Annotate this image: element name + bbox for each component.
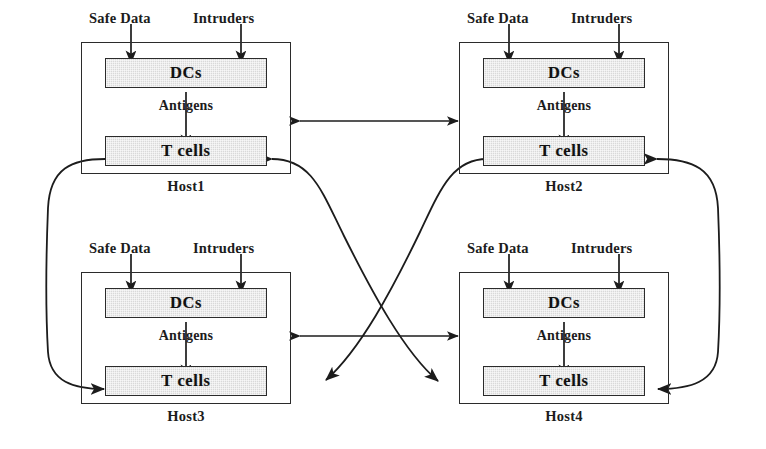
tcells-box-host1[interactable]: T cells [105, 136, 267, 166]
host-name-label-host1: Host1 [81, 178, 291, 195]
antigens-label-host4: Antigens [459, 328, 669, 344]
host-name-label-host2: Host2 [459, 178, 669, 195]
dcs-box-host4[interactable]: DCs [483, 288, 645, 318]
tcells-box-host2[interactable]: T cells [483, 136, 645, 166]
input-label-safe-data-host3: Safe Data [89, 240, 151, 257]
input-label-intruders-host1: Intruders [193, 10, 254, 27]
connector-host1-host4 [272, 159, 438, 381]
host-name-label-host4: Host4 [459, 408, 669, 425]
dcs-box-host2[interactable]: DCs [483, 58, 645, 88]
host-name-label-host3: Host3 [81, 408, 291, 425]
input-label-safe-data-host4: Safe Data [467, 240, 529, 257]
input-label-intruders-host2: Intruders [571, 10, 632, 27]
tcells-box-host4[interactable]: T cells [483, 366, 645, 396]
dcs-box-host3[interactable]: DCs [105, 288, 267, 318]
input-label-safe-data-host2: Safe Data [467, 10, 529, 27]
host-block-host3[interactable]: Safe Data Intruders DCs Antigens T cells… [81, 240, 291, 430]
antigens-label-host2: Antigens [459, 98, 669, 114]
host-block-host4[interactable]: Safe Data Intruders DCs Antigens T cells… [459, 240, 669, 430]
host-block-host2[interactable]: Safe Data Intruders DCs Antigens T cells… [459, 10, 669, 200]
antigens-label-host3: Antigens [81, 328, 291, 344]
tcells-box-host3[interactable]: T cells [105, 366, 267, 396]
dcs-box-host1[interactable]: DCs [105, 58, 267, 88]
input-label-intruders-host4: Intruders [571, 240, 632, 257]
input-label-intruders-host3: Intruders [193, 240, 254, 257]
diagram-canvas: Safe Data Intruders DCs Antigens T cells… [0, 0, 766, 449]
input-label-safe-data-host1: Safe Data [89, 10, 151, 27]
host-block-host1[interactable]: Safe Data Intruders DCs Antigens T cells… [81, 10, 291, 200]
antigens-label-host1: Antigens [81, 98, 291, 114]
